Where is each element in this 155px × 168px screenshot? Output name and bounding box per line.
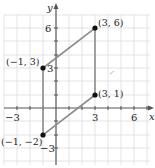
- point-3-6: [92, 25, 97, 30]
- decorative-mark: [110, 71, 114, 74]
- label-point-3-6: (3, 6): [98, 17, 124, 28]
- point-neg1-3: [40, 65, 45, 70]
- tick-label-y-6: 6: [45, 23, 51, 34]
- label-point-3-1: (3, 1): [98, 88, 124, 99]
- y-axis-arrow-icon: [54, 3, 59, 9]
- tick-label-x-6: 6: [131, 112, 137, 123]
- tick-label-x-neg3: −3: [5, 112, 20, 123]
- x-axis-label: x: [149, 111, 155, 122]
- y-axis-label: y: [46, 2, 53, 13]
- parallelogram-chart: (−1, 3) (3, 6) (3, 1) (−1, −2) −3 3 6 6 …: [0, 0, 155, 168]
- tick-label-y-neg3: −3: [40, 143, 55, 154]
- label-point-neg1-3: (−1, 3): [6, 56, 40, 67]
- point-3-1: [92, 92, 97, 97]
- tick-label-y-3: 3: [47, 63, 53, 74]
- tick-label-x-3: 3: [92, 112, 98, 123]
- x-axis-arrow-icon: [148, 106, 154, 111]
- label-point-neg1-neg2: (−1, −2): [1, 136, 42, 147]
